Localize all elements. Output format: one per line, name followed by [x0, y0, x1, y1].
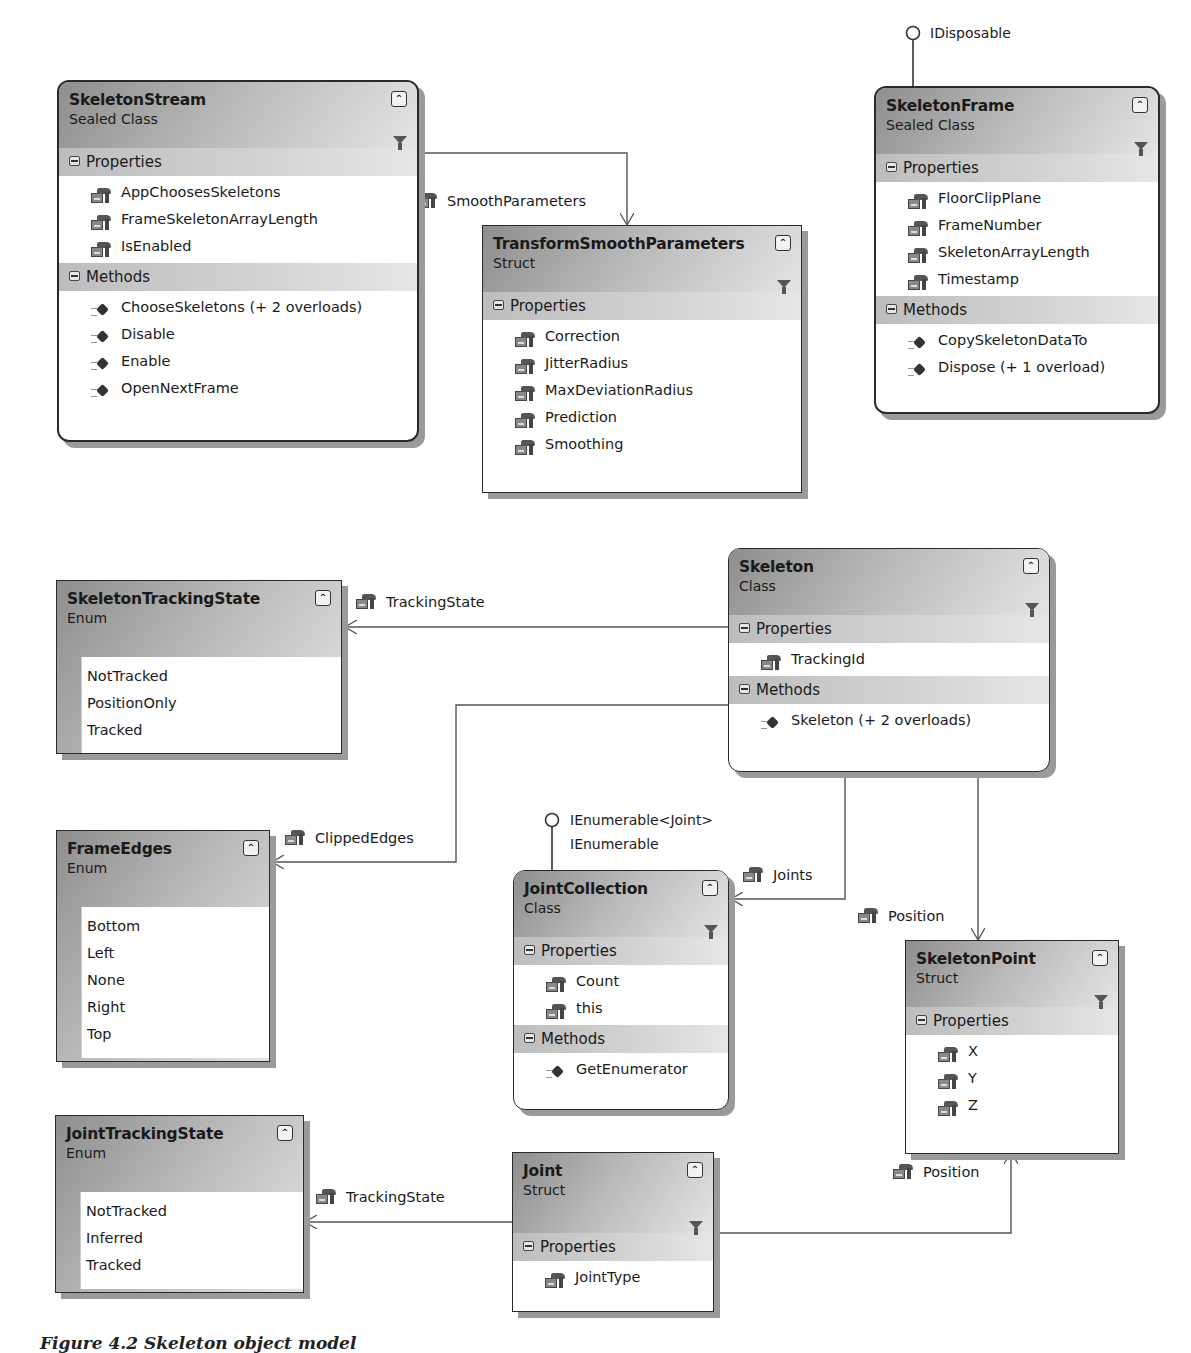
class-kind: Sealed Class — [69, 111, 407, 127]
chevron-double-up-icon[interactable]: ⌃ — [1092, 950, 1108, 966]
section-properties[interactable]: Properties — [514, 937, 728, 965]
funnel-icon[interactable] — [777, 280, 791, 288]
member-property[interactable]: X — [906, 1038, 1118, 1065]
section-properties[interactable]: Properties — [513, 1233, 713, 1261]
minus-square-icon[interactable] — [493, 300, 504, 310]
enum-value[interactable]: None — [82, 967, 269, 994]
member-property[interactable]: Z — [906, 1092, 1118, 1119]
enum-box-joint-tracking-state[interactable]: JointTrackingState Enum ⌃ NotTracked Inf… — [55, 1115, 304, 1293]
member-property[interactable]: TrackingId — [729, 646, 1049, 673]
chevron-double-up-icon[interactable]: ⌃ — [243, 840, 259, 856]
chevron-double-up-icon[interactable]: ⌃ — [1132, 97, 1148, 113]
funnel-icon[interactable] — [393, 136, 407, 144]
enum-name: FrameEdges — [67, 840, 259, 858]
minus-square-icon[interactable] — [739, 684, 750, 694]
member-property[interactable]: Count — [514, 968, 728, 995]
minus-square-icon[interactable] — [886, 304, 897, 314]
enum-value[interactable]: Left — [82, 940, 269, 967]
enum-box-skeleton-tracking-state[interactable]: SkeletonTrackingState Enum ⌃ NotTracked … — [56, 580, 342, 754]
funnel-icon[interactable] — [689, 1221, 703, 1229]
funnel-icon[interactable] — [1025, 603, 1039, 611]
class-box-joint-collection[interactable]: JointCollection Class ⌃ Properties Count… — [513, 870, 729, 1110]
section-properties[interactable]: Properties — [59, 148, 417, 176]
property-icon — [316, 1189, 336, 1204]
property-icon — [91, 215, 111, 230]
member-property[interactable]: SkeletonArrayLength — [876, 239, 1158, 266]
section-properties[interactable]: Properties — [876, 154, 1158, 182]
enum-value[interactable]: Tracked — [81, 1252, 303, 1279]
minus-square-icon[interactable] — [69, 271, 80, 281]
section-properties[interactable]: Properties — [906, 1007, 1118, 1035]
section-methods[interactable]: Methods — [729, 676, 1049, 704]
enum-value[interactable]: Top — [82, 1021, 269, 1048]
funnel-icon[interactable] — [1134, 142, 1148, 150]
minus-square-icon[interactable] — [69, 156, 80, 166]
member-method[interactable]: Skeleton (+ 2 overloads) — [729, 707, 1049, 734]
member-property[interactable]: Correction — [483, 323, 801, 350]
figure-caption: Figure 4.2 Skeleton object model — [40, 1333, 356, 1353]
member-property[interactable]: IsEnabled — [59, 233, 417, 260]
member-property[interactable]: Timestamp — [876, 266, 1158, 293]
section-properties[interactable]: Properties — [729, 615, 1049, 643]
interface-ienumerable-joint: IEnumerable<Joint> — [570, 808, 713, 832]
member-property[interactable]: JitterRadius — [483, 350, 801, 377]
class-box-skeleton[interactable]: Skeleton Class ⌃ Properties TrackingId M… — [728, 548, 1050, 772]
member-property[interactable]: this — [514, 995, 728, 1022]
section-methods[interactable]: Methods — [59, 263, 417, 291]
chevron-double-up-icon[interactable]: ⌃ — [315, 590, 331, 606]
property-icon — [743, 867, 763, 882]
method-icon — [908, 337, 928, 351]
member-property[interactable]: Smoothing — [483, 431, 801, 458]
member-property[interactable]: FloorClipPlane — [876, 185, 1158, 212]
member-method[interactable]: Enable — [59, 348, 417, 375]
enum-value[interactable]: Inferred — [81, 1225, 303, 1252]
enum-value[interactable]: Right — [82, 994, 269, 1021]
section-properties[interactable]: Properties — [483, 292, 801, 320]
member-method[interactable]: OpenNextFrame — [59, 375, 417, 402]
property-icon — [938, 1074, 958, 1089]
chevron-double-up-icon[interactable]: ⌃ — [775, 235, 791, 251]
member-method[interactable]: Disable — [59, 321, 417, 348]
enum-value[interactable]: Tracked — [82, 717, 341, 744]
class-box-joint[interactable]: Joint Struct ⌃ Properties JointType — [512, 1152, 714, 1312]
minus-square-icon[interactable] — [524, 945, 535, 955]
minus-square-icon[interactable] — [523, 1241, 534, 1251]
class-kind: Sealed Class — [886, 117, 1148, 133]
member-property[interactable]: FrameNumber — [876, 212, 1158, 239]
member-method[interactable]: Dispose (+ 1 overload) — [876, 354, 1158, 381]
property-icon — [285, 830, 305, 845]
member-property[interactable]: JointType — [513, 1264, 713, 1291]
member-property[interactable]: Prediction — [483, 404, 801, 431]
class-box-skeleton-stream[interactable]: SkeletonStream Sealed Class ⌃ Properties… — [57, 80, 419, 442]
section-methods[interactable]: Methods — [876, 296, 1158, 324]
section-methods[interactable]: Methods — [514, 1025, 728, 1053]
class-box-skeleton-point[interactable]: SkeletonPoint Struct ⌃ Properties X Y Z — [905, 940, 1119, 1154]
chevron-double-up-icon[interactable]: ⌃ — [702, 880, 718, 896]
minus-square-icon[interactable] — [916, 1015, 927, 1025]
member-property[interactable]: FrameSkeletonArrayLength — [59, 206, 417, 233]
enum-value[interactable]: PositionOnly — [82, 690, 341, 717]
enum-box-frame-edges[interactable]: FrameEdges Enum ⌃ Bottom Left None Right… — [56, 830, 270, 1062]
chevron-double-up-icon[interactable]: ⌃ — [391, 91, 407, 107]
member-method[interactable]: ChooseSkeletons (+ 2 overloads) — [59, 294, 417, 321]
class-box-transform-smooth-parameters[interactable]: TransformSmoothParameters Struct ⌃ Prope… — [482, 225, 802, 493]
enum-value[interactable]: NotTracked — [82, 663, 341, 690]
member-property[interactable]: MaxDeviationRadius — [483, 377, 801, 404]
funnel-icon[interactable] — [1094, 995, 1108, 1003]
member-method[interactable]: CopySkeletonDataTo — [876, 327, 1158, 354]
funnel-icon[interactable] — [704, 925, 718, 933]
chevron-double-up-icon[interactable]: ⌃ — [277, 1125, 293, 1141]
chevron-double-up-icon[interactable]: ⌃ — [1023, 558, 1039, 574]
minus-square-icon[interactable] — [524, 1033, 535, 1043]
member-property[interactable]: Y — [906, 1065, 1118, 1092]
minus-square-icon[interactable] — [886, 162, 897, 172]
member-property[interactable]: AppChoosesSkeletons — [59, 179, 417, 206]
chevron-double-up-icon[interactable]: ⌃ — [687, 1162, 703, 1178]
minus-square-icon[interactable] — [739, 623, 750, 633]
member-method[interactable]: GetEnumerator — [514, 1056, 728, 1083]
class-kind: Struct — [493, 255, 791, 271]
class-name: TransformSmoothParameters — [493, 235, 791, 253]
class-box-skeleton-frame[interactable]: SkeletonFrame Sealed Class ⌃ Properties … — [874, 86, 1160, 414]
enum-value[interactable]: NotTracked — [81, 1198, 303, 1225]
enum-value[interactable]: Bottom — [82, 913, 269, 940]
